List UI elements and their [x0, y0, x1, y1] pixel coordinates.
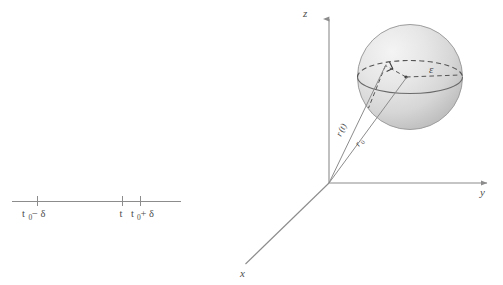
x-axis-label: x	[239, 267, 245, 279]
epsilon-ball-group: ε	[358, 25, 463, 130]
tick-label-left-op: − δ	[32, 208, 46, 219]
tick-label-right-op: + δ	[141, 208, 155, 219]
x-axis	[246, 183, 330, 264]
figure-root: t 0 − δ t t 0 + δ z y	[0, 0, 503, 285]
coordinate-system-group: z y x ε	[239, 7, 487, 279]
tick-label-left-main: t	[22, 208, 25, 219]
tick-label-right-main: t	[131, 208, 134, 219]
vector-r-naught-label: r 0	[353, 136, 367, 149]
number-line-group: t 0 − δ t t 0 + δ	[12, 196, 181, 222]
tick-label-center-main: t	[120, 208, 123, 219]
epsilon-radius-label: ε	[429, 63, 434, 75]
diagram-canvas: t 0 − δ t t 0 + δ z y	[0, 0, 503, 285]
tick-label-center: t	[120, 208, 123, 219]
tick-label-right: t 0 + δ	[131, 208, 154, 222]
y-axis-label: y	[479, 186, 485, 198]
vector-r-of-t-label: r (t)	[334, 122, 349, 138]
z-axis-label: z	[302, 7, 308, 19]
tick-label-left: t 0 − δ	[22, 208, 46, 222]
